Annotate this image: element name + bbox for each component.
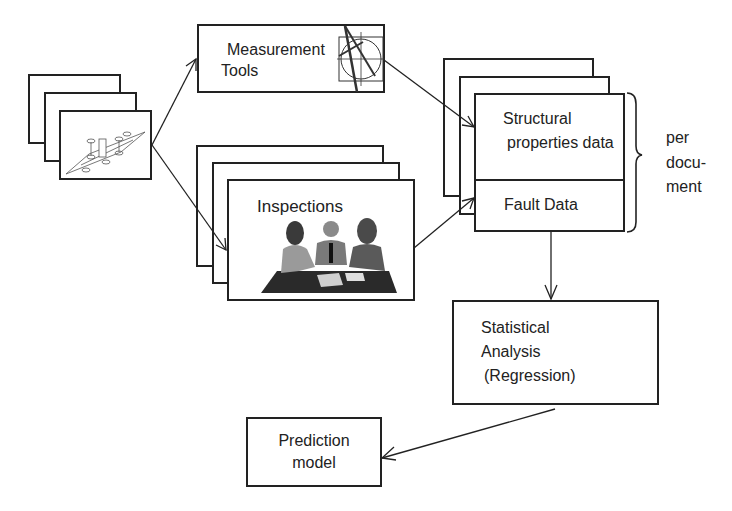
statistical-label-1: Statistical xyxy=(481,318,549,338)
statistical-label-2: Analysis xyxy=(481,342,541,362)
arrow-statistical-to-prediction xyxy=(382,409,555,458)
statistical-analysis-box: Statistical Analysis (Regression) xyxy=(452,300,659,405)
inspections-box: Inspections xyxy=(227,179,415,301)
per-document-label-1: per xyxy=(666,128,689,148)
prediction-label-2: model xyxy=(248,453,380,473)
prediction-label-1: Prediction xyxy=(248,431,380,451)
arrowhead-icon xyxy=(186,59,196,71)
structural-label-2: properties data xyxy=(507,133,614,153)
data-record-box: Structural properties data Fault Data xyxy=(474,93,625,232)
circuit-diagram-icon xyxy=(61,112,150,178)
statistical-label-3: (Regression) xyxy=(484,366,576,386)
measurement-tools-label-1: Measurement xyxy=(227,40,325,60)
measurement-tools-label-2: Tools xyxy=(221,61,258,81)
measurement-tools-box: Measurement Tools xyxy=(197,24,385,93)
prediction-model-box: Prediction model xyxy=(246,417,382,487)
arrowhead-icon xyxy=(382,447,396,460)
brace-icon xyxy=(627,93,642,232)
structural-properties-section: Structural properties data xyxy=(476,95,623,181)
compass-drafting-icon xyxy=(335,24,385,92)
document-page-front xyxy=(59,110,152,180)
per-document-label-2: docu- xyxy=(666,153,706,173)
meeting-people-icon xyxy=(259,215,399,295)
arrow-docs-to-measurement xyxy=(152,59,196,145)
structural-label-1: Structural xyxy=(503,109,571,129)
arrowhead-icon xyxy=(545,285,557,299)
per-document-label-3: ment xyxy=(666,177,702,197)
fault-data-label: Fault Data xyxy=(504,195,578,215)
inspections-label: Inspections xyxy=(257,197,343,217)
